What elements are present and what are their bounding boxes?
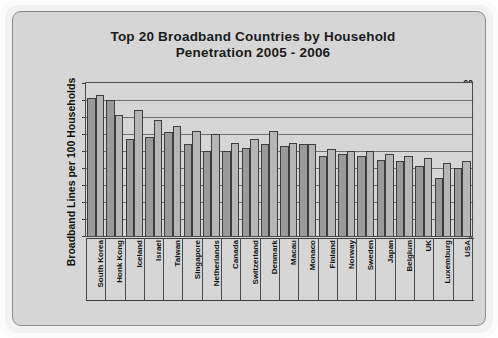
- bar-group: [221, 83, 240, 236]
- bar: [299, 144, 307, 236]
- x-axis-tick-label: Canada: [231, 240, 240, 269]
- bar: [385, 154, 393, 236]
- bar: [222, 151, 230, 236]
- bar: [261, 144, 269, 236]
- bar: [242, 148, 250, 236]
- bar-group: [240, 83, 259, 236]
- x-axis-cell: Taiwan: [163, 238, 182, 300]
- bar-group: [414, 83, 433, 236]
- x-axis-cell: Sweden: [356, 238, 375, 300]
- bar-group: [395, 83, 414, 236]
- x-axis-tick-label: Israel: [154, 240, 163, 261]
- bar-group: [375, 83, 394, 236]
- bar: [184, 144, 192, 236]
- bar: [231, 143, 239, 237]
- x-axis-cell: Luxemburg: [433, 238, 452, 300]
- x-axis-tick-label: Finland: [328, 240, 337, 268]
- x-axis-cell: Honk Kong: [105, 238, 124, 300]
- bar: [145, 137, 153, 236]
- x-axis-cell: Finland: [318, 238, 337, 300]
- bar: [357, 156, 365, 236]
- x-axis-tick-label: South Korea: [96, 240, 105, 288]
- x-axis-tick-label: UK: [424, 240, 433, 252]
- bar: [366, 151, 374, 236]
- bar: [154, 120, 162, 236]
- x-axis-labels: South KoreaHonk KongIcelandIsraelTaiwanS…: [86, 238, 473, 300]
- bar: [164, 132, 172, 236]
- x-axis-tick-label: Switzerland: [251, 240, 260, 284]
- bar-group: [453, 83, 472, 236]
- x-axis-tick-label: USA: [463, 240, 472, 257]
- x-axis-tick-label: Sweden: [366, 240, 375, 270]
- chart-title-line-2: Penetration 2005 - 2006: [53, 45, 453, 61]
- x-axis-tick-label: Belgium: [405, 240, 414, 272]
- x-axis-tick-label: Monaco: [308, 240, 317, 270]
- y-axis-title: Broadband Lines per 100 Households: [65, 11, 77, 326]
- bar-group: [105, 83, 124, 236]
- bar: [415, 166, 423, 236]
- x-axis-tick-label: Macau: [289, 240, 298, 265]
- x-axis-tick-label: Singapore: [193, 240, 202, 279]
- x-axis-cell: Switzerland: [240, 238, 259, 300]
- bar-group: [298, 83, 317, 236]
- x-axis-cell: Japan: [375, 238, 394, 300]
- bar-group: [433, 83, 452, 236]
- bar: [87, 98, 95, 236]
- bar: [106, 100, 114, 236]
- bar: [192, 131, 200, 236]
- x-axis-cell: Iceland: [125, 238, 144, 300]
- x-axis-cell: Macau: [279, 238, 298, 300]
- bar: [424, 158, 432, 236]
- bar: [134, 110, 142, 236]
- plot-wrapper: Broadband Lines per 100 Households 90807…: [73, 82, 473, 249]
- bar-group: [202, 83, 221, 236]
- bar: [269, 131, 277, 236]
- outer-frame: Top 20 Broadband Countries by Household …: [0, 0, 498, 338]
- bar: [280, 146, 288, 236]
- x-axis-cell: Netherlands: [202, 238, 221, 300]
- bar-group: [163, 83, 182, 236]
- bar-group: [356, 83, 375, 236]
- bar: [327, 149, 335, 236]
- bar: [347, 151, 355, 236]
- x-axis-cell: UK: [414, 238, 433, 300]
- bar: [115, 115, 123, 236]
- x-axis-bottom-rule: [86, 300, 474, 301]
- x-axis-tick-label: Honk Kong: [115, 240, 124, 283]
- bar: [462, 161, 470, 236]
- bar: [96, 95, 104, 236]
- x-axis-cell: Singapore: [182, 238, 201, 300]
- x-axis-cell: Belgium: [395, 238, 414, 300]
- chart-panel: Top 20 Broadband Countries by Household …: [12, 11, 486, 326]
- bar: [211, 134, 219, 236]
- x-axis-tick-label: Denmark: [270, 240, 279, 274]
- x-axis-cell: Monaco: [298, 238, 317, 300]
- bars-layer: [86, 83, 472, 236]
- x-axis-tick-label: Japan: [386, 240, 395, 263]
- bar: [377, 160, 385, 237]
- bar: [319, 156, 327, 236]
- x-axis-tick-label: Luxemburg: [443, 240, 452, 284]
- bar: [250, 139, 258, 236]
- x-axis-cell: Norway: [337, 238, 356, 300]
- x-axis-cell: Canada: [221, 238, 240, 300]
- bar: [404, 156, 412, 236]
- bar: [173, 126, 181, 237]
- bar: [126, 139, 134, 236]
- bar-group: [279, 83, 298, 236]
- bar: [289, 143, 297, 237]
- bar: [443, 163, 451, 236]
- chart-title: Top 20 Broadband Countries by Household …: [53, 29, 453, 61]
- x-axis-cell: Denmark: [260, 238, 279, 300]
- x-axis-cell: USA: [453, 238, 473, 300]
- bar-group: [337, 83, 356, 236]
- bar-group: [144, 83, 163, 236]
- chart-title-line-1: Top 20 Broadband Countries by Household: [110, 29, 395, 44]
- bar-group: [125, 83, 144, 236]
- bar: [203, 151, 211, 236]
- x-axis-tick-label: Taiwan: [173, 240, 182, 267]
- x-axis-tick-label: Norway: [347, 240, 356, 269]
- bar-group: [86, 83, 105, 236]
- bar: [338, 154, 346, 236]
- x-axis-tick-label: Iceland: [135, 240, 144, 268]
